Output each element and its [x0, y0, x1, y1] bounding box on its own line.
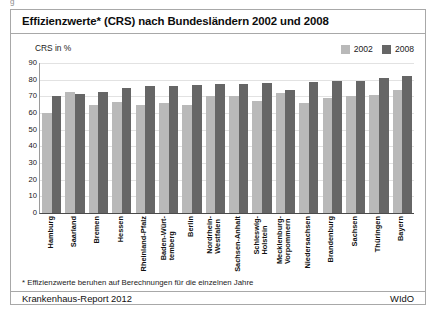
footnote: * Effizienzwerte beruhen auf Berechnunge…: [22, 278, 416, 287]
x-axis-label: Schleswig-Holstein: [253, 216, 269, 255]
y-axis-tick-label: 40: [29, 143, 37, 151]
x-axis-label: Baden-Würt-temberg: [160, 216, 176, 260]
bar-2002: [369, 95, 379, 213]
bar-2008: [122, 88, 132, 213]
bar-group: [321, 63, 344, 213]
x-axis-label-line: Hamburg: [47, 216, 55, 248]
bar-group: [367, 63, 390, 213]
x-axis-label-line: Sachsen: [351, 216, 359, 246]
y-axis-tick-label: 90: [29, 59, 37, 67]
bar-2002: [346, 96, 356, 213]
x-axis-label-cell: Bayern: [390, 215, 413, 279]
x-axis-label-line: Saarland: [70, 216, 78, 247]
bar-2002: [182, 105, 192, 213]
bar-2002: [65, 92, 75, 213]
bar-2008: [169, 86, 179, 213]
x-axis-label-line: Holstein: [261, 216, 269, 255]
bar-group: [180, 63, 203, 213]
x-axis-label-cell: Sachsen: [343, 215, 366, 279]
y-axis-tick-label: 80: [29, 76, 37, 84]
y-axis-tick-label: 50: [29, 126, 37, 134]
footer-source: Krankenhaus-Report 2012: [22, 293, 132, 304]
bar-series-container: [40, 63, 414, 213]
x-axis-label-cell: Hessen: [109, 215, 132, 279]
x-axis-label-cell: Schleswig-Holstein: [249, 215, 272, 279]
bar-2008: [75, 94, 85, 213]
y-axis-tick-label: 30: [29, 159, 37, 167]
y-axis-tick-label: 0: [33, 209, 37, 217]
bar-group: [250, 63, 273, 213]
bar-2008: [262, 83, 272, 213]
bar-group: [63, 63, 86, 213]
x-axis-label-line: Thüringen: [374, 216, 382, 252]
x-axis-label-line: Berlin: [187, 216, 195, 237]
x-axis-label-line: Hessen: [117, 216, 125, 242]
x-axis-label-cell: Brandenburg: [320, 215, 343, 279]
x-axis-label-cell: Rheinland-Pfalz: [133, 215, 156, 279]
bar-2008: [332, 81, 342, 213]
y-axis-tick-label: 20: [29, 176, 37, 184]
bar-2002: [323, 98, 333, 213]
bar-2002: [393, 90, 403, 213]
x-axis-label: Hessen: [117, 216, 125, 242]
clipped-top-text: g: [10, 0, 210, 6]
bar-2008: [145, 86, 155, 213]
x-axis-label-cell: Nordrhein-Westfalen: [203, 215, 226, 279]
x-axis-label: Brandenburg: [327, 216, 335, 262]
bar-2002: [276, 93, 286, 213]
bar-2008: [192, 85, 202, 213]
figure-frame: Effizienzwerte* (CRS) nach Bundesländern…: [10, 9, 426, 305]
x-axis-label-cell: Berlin: [179, 215, 202, 279]
bar-2008: [402, 76, 412, 213]
bar-2008: [98, 92, 108, 213]
x-axis-label-cell: Hamburg: [39, 215, 62, 279]
y-axis-tick-label: 10: [29, 193, 37, 201]
bar-2002: [206, 96, 216, 213]
x-axis-label: Berlin: [187, 216, 195, 237]
x-axis-label: Sachsen-Anhalt: [234, 216, 242, 272]
bar-2002: [112, 102, 122, 213]
bar-group: [110, 63, 133, 213]
bar-2008: [285, 90, 295, 213]
bar-group: [227, 63, 250, 213]
bar-2002: [42, 113, 52, 213]
x-axis-label: Nordrhein-Westfalen: [206, 216, 222, 254]
x-axis-label-cell: Thüringen: [366, 215, 389, 279]
bar-2008: [52, 96, 62, 213]
plot-area: 0102030405060708090: [39, 63, 414, 214]
footer: Krankenhaus-Report 2012 WIdO: [11, 292, 425, 305]
x-axis-label-cell: Sachsen-Anhalt: [226, 215, 249, 279]
gridline: [40, 213, 414, 214]
y-axis-tick-label: 70: [29, 93, 37, 101]
x-axis-label-line: Bayern: [397, 216, 405, 241]
x-axis-label-line: temberg: [168, 216, 176, 260]
x-axis-labels: HamburgSaarlandBremenHessenRheinland-Pfa…: [39, 215, 413, 279]
x-axis-label-line: Vorpommern: [284, 216, 292, 264]
bar-group: [274, 63, 297, 213]
x-axis-label-cell: Saarland: [62, 215, 85, 279]
bar-2008: [379, 78, 389, 213]
x-axis-label: Thüringen: [374, 216, 382, 252]
bar-2002: [229, 96, 239, 213]
x-axis-label-line: Rheinland-Pfalz: [140, 216, 148, 271]
bar-2002: [89, 105, 99, 213]
x-axis-label: Sachsen: [351, 216, 359, 246]
bar-group: [40, 63, 63, 213]
x-axis-label-cell: Niedersachsen: [296, 215, 319, 279]
x-axis-label: Mecklenburg-Vorpommern: [276, 216, 292, 264]
bar-group: [344, 63, 367, 213]
bar-2002: [299, 103, 309, 213]
bar-group: [157, 63, 180, 213]
x-axis-label-line: Niedersachsen: [304, 216, 312, 269]
bar-group: [87, 63, 110, 213]
bar-2008: [215, 84, 225, 213]
bar-2008: [356, 81, 366, 214]
bar-2002: [252, 101, 262, 213]
x-axis-label-line: Westfalen: [214, 216, 222, 254]
y-axis-tick-label: 60: [29, 109, 37, 117]
x-axis-label: Bremen: [93, 216, 101, 244]
x-axis-label: Saarland: [70, 216, 78, 247]
x-axis-label: Hamburg: [47, 216, 55, 248]
x-axis-label-cell: Baden-Würt-temberg: [156, 215, 179, 279]
x-axis-label-cell: Bremen: [86, 215, 109, 279]
